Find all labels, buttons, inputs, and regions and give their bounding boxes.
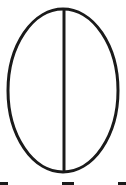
divided-ellipse-figure (0, 0, 126, 185)
cutoff-mark (62, 182, 74, 185)
cutoff-mark (0, 182, 8, 185)
cutoff-mark (118, 182, 126, 185)
diagram-canvas (0, 0, 126, 185)
